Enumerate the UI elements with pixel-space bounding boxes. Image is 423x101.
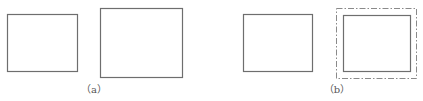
panel-b-label: （b） (324, 84, 350, 95)
figure-canvas: （a） （b） (0, 0, 423, 101)
panel-a-label: （a） (81, 84, 107, 95)
panel-b-dashdot-outline (337, 9, 417, 79)
panel-b-inner-rectangle (344, 16, 411, 72)
panel-b-rectangle (244, 15, 313, 72)
panel-a: （a） (8, 9, 183, 96)
panel-b: （b） (244, 9, 417, 96)
panel-a-large-rectangle (101, 9, 183, 78)
panel-a-small-rectangle (8, 15, 78, 72)
